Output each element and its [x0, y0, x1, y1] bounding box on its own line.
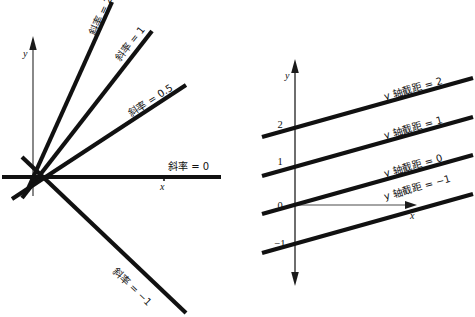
left-y-axis-label: y [22, 48, 28, 59]
right-y-axis-label: y [284, 70, 290, 81]
dual-line-diagram: y x 斜率 = 0 斜率 = 2 斜率 = 1 斜率 [0, 0, 475, 317]
left-x-axis-label: x [159, 181, 165, 192]
left-label-slope-0: 斜率 = 0 [168, 160, 209, 172]
right-ytick-2: 2 [277, 119, 282, 130]
right-ytick-1: 1 [277, 156, 282, 167]
figure-canvas: y x 斜率 = 0 斜率 = 2 斜率 = 1 斜率 [0, 0, 475, 317]
